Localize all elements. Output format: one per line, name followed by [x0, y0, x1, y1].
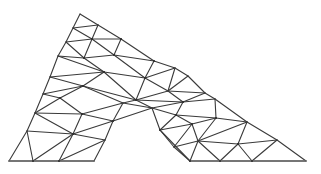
- mesh-node: [32, 160, 34, 162]
- mesh-edge: [114, 39, 121, 55]
- mesh-node: [59, 97, 61, 99]
- mesh-node: [159, 129, 161, 131]
- mesh-edge: [73, 121, 113, 134]
- mesh-edge: [168, 91, 205, 93]
- mesh-node: [182, 101, 184, 103]
- mesh-edge: [152, 108, 160, 130]
- mesh-edge: [35, 113, 82, 114]
- mesh-edge: [215, 99, 216, 118]
- mesh-edge: [198, 141, 220, 161]
- mesh-edge: [50, 72, 104, 77]
- mesh-edge: [92, 39, 114, 55]
- triangular-mesh-diagram: [0, 0, 321, 174]
- mesh-edge: [82, 114, 113, 121]
- mesh-edge: [92, 25, 98, 39]
- mesh-edge: [192, 124, 198, 141]
- mesh-edge: [84, 39, 92, 58]
- mesh-edge: [73, 134, 105, 140]
- mesh-node: [135, 99, 137, 101]
- mesh-edge: [168, 91, 183, 102]
- mesh-edge: [136, 91, 168, 100]
- mesh-edge: [59, 134, 73, 161]
- mesh-edge: [176, 102, 183, 115]
- mesh-edge: [66, 39, 92, 42]
- mesh-edge: [73, 14, 80, 28]
- mesh-edge: [238, 140, 277, 144]
- mesh-edge: [160, 130, 190, 161]
- mesh-edge: [121, 39, 154, 61]
- mesh-node: [189, 160, 191, 162]
- mesh-edge: [80, 14, 98, 25]
- mesh-edge: [73, 28, 92, 39]
- mesh-edge: [35, 113, 73, 134]
- mesh-edge: [168, 68, 175, 91]
- mesh-node: [153, 60, 155, 62]
- mesh-edges: [9, 14, 306, 161]
- mesh-edge: [123, 100, 136, 103]
- mesh-edge: [98, 25, 121, 39]
- mesh-node: [113, 54, 115, 56]
- mesh-edge: [136, 78, 145, 100]
- mesh-node: [58, 160, 60, 162]
- mesh-node: [175, 114, 177, 116]
- mesh-edge: [152, 108, 176, 115]
- mesh-node: [72, 133, 74, 135]
- mesh-node: [237, 143, 239, 145]
- mesh-edge: [105, 121, 113, 140]
- mesh-edge: [175, 68, 188, 76]
- mesh-edge: [168, 76, 188, 91]
- mesh-edge: [205, 93, 215, 99]
- mesh-edge: [190, 141, 198, 161]
- mesh-edge: [238, 144, 252, 161]
- mesh-node: [83, 57, 85, 59]
- mesh-node: [219, 160, 221, 162]
- mesh-edge: [27, 113, 35, 131]
- mesh-edge: [247, 122, 277, 140]
- mesh-edge: [43, 94, 60, 98]
- mesh-edge: [220, 144, 238, 161]
- mesh-edge: [27, 131, 33, 161]
- mesh-edge: [152, 102, 183, 108]
- mesh-edge: [84, 55, 114, 58]
- mesh-edge: [9, 131, 27, 161]
- mesh-edge: [252, 140, 277, 161]
- mesh-edge: [27, 131, 73, 134]
- mesh-edge: [66, 42, 84, 58]
- mesh-node: [191, 123, 193, 125]
- mesh-node: [215, 117, 217, 119]
- mesh-node: [103, 71, 105, 73]
- mesh-edge: [84, 58, 104, 72]
- mesh-edge: [43, 86, 83, 94]
- mesh-node: [82, 85, 84, 87]
- mesh-edge: [82, 103, 123, 114]
- mesh-node: [112, 120, 114, 122]
- mesh-node: [144, 77, 146, 79]
- mesh-node: [251, 160, 253, 162]
- mesh-edge: [66, 28, 73, 42]
- mesh-node: [91, 38, 93, 40]
- mesh-edge: [58, 42, 66, 56]
- mesh-edge: [154, 61, 175, 68]
- mesh-node: [120, 38, 122, 40]
- mesh-edge: [176, 115, 216, 118]
- mesh-edge: [50, 77, 83, 86]
- mesh-edge: [60, 98, 82, 114]
- mesh-edge: [188, 76, 205, 93]
- mesh-edge: [50, 56, 58, 77]
- mesh-edge: [145, 78, 168, 91]
- mesh-edge: [277, 140, 306, 161]
- mesh-edge: [136, 100, 183, 102]
- mesh-edge: [198, 141, 238, 144]
- mesh-edge: [73, 25, 98, 28]
- mesh-edge: [59, 140, 105, 161]
- mesh-node: [81, 113, 83, 115]
- mesh-edge: [58, 56, 104, 72]
- mesh-edge: [94, 140, 105, 161]
- mesh-edge: [43, 77, 50, 94]
